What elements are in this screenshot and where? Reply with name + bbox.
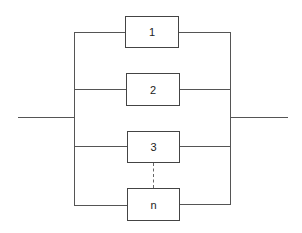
block-2: 2	[126, 73, 180, 106]
block-n: n	[127, 188, 180, 221]
block-2-label: 2	[150, 84, 156, 96]
branch-3-left-wire	[74, 146, 127, 147]
branch-n-left-wire	[74, 205, 127, 206]
branch-1-right-wire	[178, 32, 231, 33]
branch-3-right-wire	[178, 146, 231, 147]
block-n-label: n	[150, 199, 156, 211]
left-bus	[74, 32, 75, 206]
branch-2-left-wire	[74, 89, 126, 90]
block-1: 1	[125, 16, 179, 48]
output-line	[230, 117, 288, 118]
branch-n-right-wire	[178, 204, 231, 205]
ellipsis-dashed-connector	[153, 163, 154, 188]
branch-1-left-wire	[74, 32, 126, 33]
branch-2-right-wire	[178, 89, 231, 90]
block-1-label: 1	[149, 26, 155, 38]
right-bus	[230, 32, 231, 205]
block-3: 3	[127, 131, 180, 163]
parallel-diagram: 1 2 3 n	[0, 0, 302, 233]
input-line	[18, 117, 75, 118]
block-3-label: 3	[150, 141, 156, 153]
